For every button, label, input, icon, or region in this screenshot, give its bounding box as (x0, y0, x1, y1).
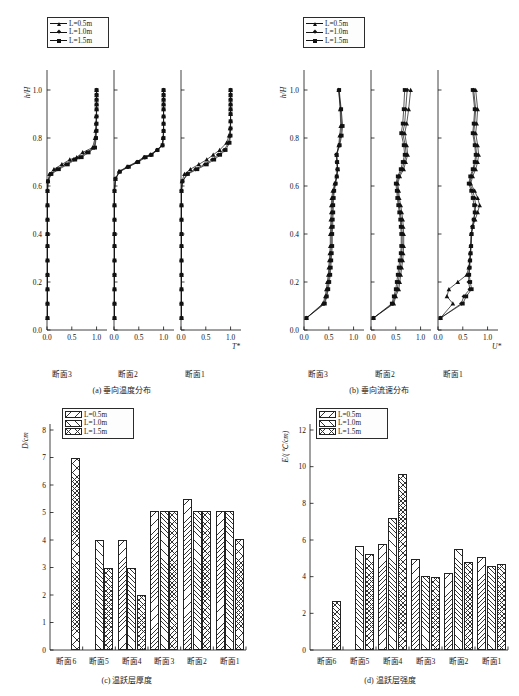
bar-断面1-L=1.0m (487, 566, 496, 650)
svg-text:0.0: 0.0 (42, 333, 52, 342)
bar-断面1-L=1.0m (225, 511, 234, 650)
panel-b-subplot-label-0: 断面3 (296, 368, 340, 379)
panel-c-thermocline-thickness: 012345678 D/cm L=0.5mL=1.0mL=1.5m 断面6断面5… (0, 400, 258, 696)
panel-a-subplot-label-1: 断面2 (106, 368, 150, 379)
bar-断面3-L=0.5m (150, 511, 159, 650)
legend-swatch-forward-slash (65, 420, 82, 427)
bar-断面2-L=1.0m (193, 511, 202, 650)
panel-c-caption: (c) 温跃层厚度 (67, 674, 187, 685)
panel-d-ylabel: E/(℃/cm) (281, 419, 290, 475)
legend-row-l10m: L=1.0m (65, 419, 130, 428)
svg-text:0.5: 0.5 (201, 333, 211, 342)
bar-断面2-L=1.0m (454, 549, 463, 650)
svg-text:1.0: 1.0 (349, 333, 359, 342)
triangle-marker-icon (306, 23, 323, 24)
panel-c-legend: L=0.5mL=1.0mL=1.5m (62, 408, 134, 439)
legend-label: L=0.5m (338, 411, 361, 419)
bar-断面3-L=0.5m (411, 559, 420, 650)
svg-text:0.2: 0.2 (33, 278, 43, 287)
diamond-marker-icon (50, 32, 67, 33)
svg-text:1.0: 1.0 (416, 333, 426, 342)
bar-断面2-L=0.5m (183, 499, 192, 650)
panel-b-vertical-velocity: 0.00.20.40.60.81.00.00.51.00.00.51.00.00… (258, 0, 519, 400)
figure-root: 0.00.20.40.60.81.00.00.51.00.00.51.00.00… (0, 0, 519, 696)
legend-label: L=1.5m (84, 428, 107, 436)
panel-d-thermocline-intensity: 024681012 E/(℃/cm) L=0.5mL=1.0mL=1.5m 断面… (258, 400, 519, 696)
svg-text:1.0: 1.0 (290, 86, 300, 95)
legend-label: L=1.5m (325, 37, 348, 45)
legend-swatch-back-slash (319, 411, 336, 418)
panel-b-subplot-label-1: 断面2 (363, 368, 407, 379)
svg-text:0.0: 0.0 (290, 326, 300, 335)
svg-text:1.0: 1.0 (33, 86, 43, 95)
panel-a-plot: 0.00.20.40.60.81.00.00.51.00.00.51.00.00… (0, 0, 258, 400)
panel-b-ylabel: h/H (279, 78, 288, 108)
bar-断面2-L=0.5m (444, 573, 453, 650)
svg-text:1.0: 1.0 (226, 333, 236, 342)
bar-断面1-L=0.5m (477, 557, 486, 650)
bar-断面3-L=1.5m (169, 511, 178, 650)
bar-断面1-L=1.5m (235, 539, 244, 650)
svg-text:0.4: 0.4 (33, 230, 43, 239)
square-marker-icon (306, 40, 323, 41)
legend-label: L=0.5m (69, 20, 92, 28)
svg-text:1.0: 1.0 (92, 333, 102, 342)
bar-断面6-L=1.5m (71, 458, 80, 651)
svg-text:0.0: 0.0 (433, 333, 443, 342)
diamond-marker-icon (306, 32, 323, 33)
svg-text:0.5: 0.5 (324, 333, 334, 342)
svg-text:0.0: 0.0 (109, 333, 119, 342)
panel-b-subplot-label-2: 断面1 (431, 368, 475, 379)
legend-row-l10m: L=1.0m (306, 28, 361, 37)
svg-text:0.5: 0.5 (458, 333, 468, 342)
legend-row-l10m: L=1.0m (319, 419, 384, 428)
panel-b-legend: L=0.5mL=1.0mL=1.5m (303, 17, 365, 48)
bar-断面5-L=1.5m (365, 554, 374, 650)
panel-c-bars (0, 400, 258, 696)
panel-a-subplot-label-2: 断面1 (173, 368, 217, 379)
svg-text:0.0: 0.0 (33, 326, 43, 335)
bar-断面3-L=1.0m (421, 576, 430, 650)
legend-swatch-cross-hatch (319, 428, 336, 435)
svg-text:1.0: 1.0 (483, 333, 493, 342)
legend-label: L=1.0m (84, 419, 107, 427)
panel-b-xlabel: U* (492, 342, 501, 351)
svg-text:1.0: 1.0 (159, 333, 169, 342)
svg-text:0.4: 0.4 (290, 230, 300, 239)
category-label-断面1: 断面1 (208, 655, 252, 666)
bar-断面4-L=0.5m (378, 544, 387, 650)
legend-row-l05m: L=0.5m (306, 20, 361, 29)
legend-label: L=1.0m (338, 419, 361, 427)
legend-swatch-cross-hatch (65, 428, 82, 435)
svg-text:0.5: 0.5 (134, 333, 144, 342)
panel-a-caption: (a) 垂向温度分布 (47, 384, 197, 395)
legend-label: L=1.0m (325, 28, 348, 36)
bar-断面1-L=1.5m (497, 564, 506, 650)
bar-断面4-L=1.0m (388, 518, 397, 650)
bar-断面3-L=1.5m (431, 577, 440, 650)
legend-row-l10m: L=1.0m (50, 28, 105, 37)
bar-断面2-L=1.5m (202, 511, 211, 650)
legend-row-l15m: L=1.5m (319, 428, 384, 437)
svg-text:0.8: 0.8 (33, 134, 43, 143)
legend-label: L=0.5m (325, 20, 348, 28)
bar-断面1-L=0.5m (216, 511, 225, 650)
legend-row-l15m: L=1.5m (306, 37, 361, 46)
bar-断面5-L=1.0m (355, 546, 364, 650)
bar-断面4-L=1.5m (137, 595, 146, 650)
svg-text:0.2: 0.2 (290, 278, 300, 287)
bar-断面3-L=1.0m (160, 511, 169, 650)
legend-label: L=1.5m (69, 37, 92, 45)
legend-row-l15m: L=1.5m (50, 37, 105, 46)
svg-text:0.5: 0.5 (391, 333, 401, 342)
bar-断面4-L=1.5m (398, 474, 407, 650)
bar-断面6-L=1.5m (332, 601, 341, 650)
panel-a-xlabel: T* (232, 342, 240, 351)
legend-row-l05m: L=0.5m (319, 411, 384, 420)
svg-text:0.0: 0.0 (176, 333, 186, 342)
panel-d-bars (258, 400, 519, 696)
legend-label: L=1.5m (338, 428, 361, 436)
svg-text:0.6: 0.6 (290, 182, 300, 191)
panel-d-legend: L=0.5mL=1.0mL=1.5m (316, 408, 388, 439)
bar-断面5-L=1.0m (95, 540, 104, 650)
